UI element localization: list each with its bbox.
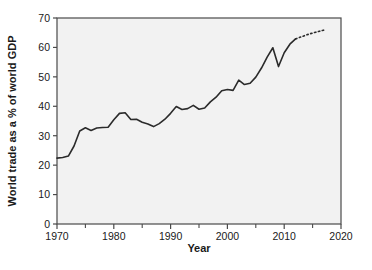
y-tick-label: 40 [38,100,50,112]
x-tick-label: 1990 [159,230,183,242]
y-tick-label: 10 [38,188,50,200]
y-axis-title: World trade as a % of world GDP [6,36,18,207]
x-tick-label: 2000 [216,230,240,242]
x-tick-label: 2010 [273,230,297,242]
y-tick-label: 20 [38,159,50,171]
world-trade-line-chart: 010203040506070 197019801990200020102020… [0,0,372,270]
y-tick-label: 0 [44,218,50,230]
y-tick-label: 30 [38,130,50,142]
chart-figure: 010203040506070 197019801990200020102020… [0,0,372,270]
x-axis-title: Year [187,242,211,254]
y-tick-label: 60 [38,41,50,53]
x-tick-label: 2020 [329,230,353,242]
y-tick-label: 70 [38,12,50,24]
x-tick-label: 1970 [45,230,69,242]
plot-area-background [57,18,341,224]
x-tick-label: 1980 [102,230,126,242]
y-tick-label: 50 [38,71,50,83]
